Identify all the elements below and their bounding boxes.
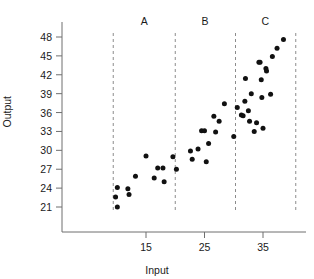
data-point (206, 141, 211, 146)
data-point (270, 54, 275, 59)
region-divider-lines (113, 33, 296, 212)
data-point (261, 126, 266, 131)
data-point (264, 69, 269, 74)
x-axis-ticks (146, 232, 263, 238)
y-axis-tick-label: 48 (26, 32, 52, 43)
y-axis-title: Output (1, 96, 13, 128)
data-point (246, 108, 251, 113)
data-point (160, 165, 165, 170)
x-axis-tick-label: 15 (140, 242, 152, 253)
data-point (190, 157, 195, 162)
data-point (125, 186, 130, 191)
data-point (113, 194, 118, 199)
data-point (222, 101, 227, 106)
y-axis-tick-label: 21 (26, 202, 52, 213)
data-point (235, 105, 240, 110)
data-point (243, 76, 248, 81)
scatter-plot-figure: 21242730333639424548 152535 ABC Output I… (0, 0, 314, 279)
data-point (211, 114, 216, 119)
y-axis-tick-label: 42 (26, 70, 52, 81)
data-point (217, 119, 222, 124)
y-axis-tick-label: 33 (26, 126, 52, 137)
data-point (115, 185, 120, 190)
data-point (152, 176, 157, 181)
data-point (213, 130, 218, 135)
y-axis-tick-label: 27 (26, 164, 52, 175)
y-axis-ticks (56, 37, 62, 207)
x-axis-tick-label: 25 (199, 242, 211, 253)
y-axis-tick-label: 36 (26, 107, 52, 118)
x-axis-tick-label: 35 (257, 242, 269, 253)
data-point (231, 134, 236, 139)
data-point (196, 147, 201, 152)
data-point (170, 154, 175, 159)
data-point (252, 129, 257, 134)
region-label-a: A (141, 16, 148, 27)
data-point (188, 148, 193, 153)
data-point (133, 174, 138, 179)
x-axis-title: Input (0, 264, 314, 276)
axis-lines (62, 22, 306, 232)
region-label-b: B (202, 16, 209, 27)
data-point (162, 179, 167, 184)
data-point (249, 91, 254, 96)
data-point (254, 120, 259, 125)
data-point (268, 92, 273, 97)
data-point (115, 205, 120, 210)
data-point (127, 192, 132, 197)
data-point (155, 165, 160, 170)
data-point (247, 119, 252, 124)
data-point (242, 99, 247, 104)
y-axis-tick-label: 45 (26, 51, 52, 62)
y-axis-tick-label: 30 (26, 145, 52, 156)
data-point (275, 46, 280, 51)
data-point (174, 167, 179, 172)
data-point (258, 60, 263, 65)
data-point (241, 113, 246, 118)
y-axis-tick-label: 39 (26, 88, 52, 99)
data-points (113, 37, 286, 209)
y-axis-tick-label: 24 (26, 183, 52, 194)
data-point (259, 77, 264, 82)
region-label-c: C (262, 16, 270, 27)
data-point (202, 128, 207, 133)
data-point (204, 159, 209, 164)
data-point (281, 37, 286, 42)
data-point (144, 154, 149, 159)
data-point (259, 95, 264, 100)
